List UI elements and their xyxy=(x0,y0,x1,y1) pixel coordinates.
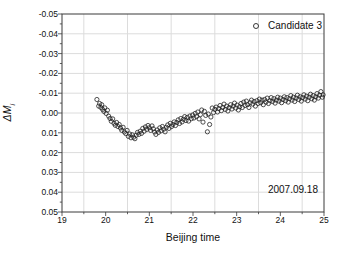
y-axis-label-main: ΔM xyxy=(1,106,13,122)
x-axis-label: Beijing time xyxy=(62,231,324,243)
open-circle-marker-icon xyxy=(252,22,260,30)
y-axis-label-subscript: i xyxy=(8,104,17,106)
x-tick-label: 23 xyxy=(224,215,250,225)
scatter-plot-figure: -0.05-0.04-0.03-0.02-0.010.000.010.020.0… xyxy=(0,0,354,253)
date-annotation: 2007.09.18 xyxy=(268,184,318,196)
data-point xyxy=(95,97,99,101)
legend: Candidate 3 xyxy=(252,19,322,32)
data-point xyxy=(187,119,191,123)
data-point xyxy=(208,122,212,126)
data-point xyxy=(201,120,205,124)
x-tick-label: 20 xyxy=(93,215,119,225)
x-tick-label: 24 xyxy=(267,215,293,225)
legend-label: Candidate 3 xyxy=(268,19,322,32)
y-axis-label-text: ΔMi xyxy=(1,104,16,122)
x-tick-label: 19 xyxy=(49,215,75,225)
x-tick-label: 21 xyxy=(136,215,162,225)
data-point xyxy=(197,117,201,121)
y-axis-label: ΔMi xyxy=(0,14,18,212)
data-point xyxy=(209,115,213,119)
x-tick-label: 25 xyxy=(311,215,337,225)
x-tick-label: 22 xyxy=(180,215,206,225)
